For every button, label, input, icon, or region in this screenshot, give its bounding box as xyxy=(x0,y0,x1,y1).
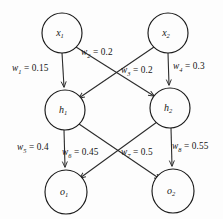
neural-network-diagram: x1 x2 h1 h2 xyxy=(0,0,223,219)
edge-x1-h1 xyxy=(62,53,64,87)
edge-x2-h2 xyxy=(168,53,169,85)
network-graph-canvas: x1 x2 h1 h2 xyxy=(0,0,223,219)
node-x1[interactable]: x1 xyxy=(42,13,82,53)
weight-label-w5: w5 = 0.4 xyxy=(17,142,49,154)
weight-label-w7: w7 = 0.5 xyxy=(121,147,153,159)
weight-label-w3: w3 = 0.2 xyxy=(121,65,153,77)
node-o2[interactable]: o2 xyxy=(152,169,194,213)
nodes-group: x1 x2 h1 h2 xyxy=(42,13,194,214)
weight-label-w4: w4 = 0.3 xyxy=(173,61,205,73)
weight-label-w6: w6 = 0.45 xyxy=(62,147,99,159)
node-h1[interactable]: h1 xyxy=(45,90,85,130)
node-x2[interactable]: x2 xyxy=(148,13,188,53)
weight-label-w2: w2 = 0.2 xyxy=(81,47,113,59)
node-o1[interactable]: o1 xyxy=(45,170,87,214)
node-h2[interactable]: h2 xyxy=(150,88,190,128)
weight-label-w1: w1 = 0.15 xyxy=(12,63,49,75)
weight-label-w8: w8 = 0.55 xyxy=(172,141,209,153)
